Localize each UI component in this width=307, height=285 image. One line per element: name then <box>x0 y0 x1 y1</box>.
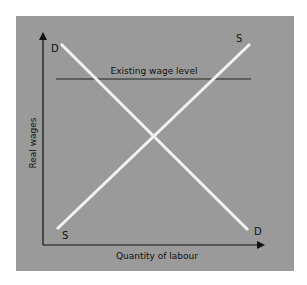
labour-market-diagram: Existing wage level D D S S Quantity of … <box>0 0 307 285</box>
demand-label-bottom: D <box>254 226 262 237</box>
y-axis-label: Real wages <box>28 117 38 168</box>
supply-label-bottom: S <box>62 230 68 241</box>
x-axis-label: Quantity of labour <box>116 251 198 261</box>
existing-wage-label: Existing wage level <box>111 66 198 76</box>
demand-label-top: D <box>51 43 59 54</box>
supply-label-top: S <box>236 33 242 44</box>
